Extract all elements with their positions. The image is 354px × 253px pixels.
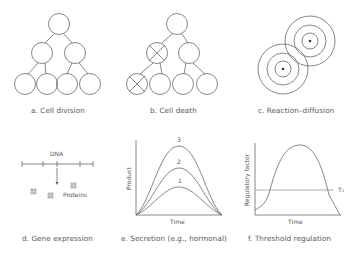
- protein-icon: [71, 183, 76, 188]
- caption-cell-division: a. Cell division: [31, 106, 85, 115]
- dna-label: DNA: [50, 150, 63, 157]
- caption-cell-death: b. Cell death: [150, 106, 197, 115]
- reaction-diffusion-rings: [258, 16, 335, 94]
- threshold-chart: [255, 143, 341, 215]
- cell-level3: [80, 74, 101, 95]
- regulatory-curve: [255, 145, 340, 215]
- caption-threshold-regulation: f. Threshold regulation: [248, 234, 331, 243]
- diagram-canvas: [0, 0, 354, 253]
- curve-2: [136, 168, 222, 215]
- protein-icon: [48, 193, 53, 198]
- caption-secretion: e. Secretion (e.g., hormonal): [121, 234, 227, 243]
- x-axis-label-time: Time: [288, 218, 303, 225]
- y-axis-label-regulatory-factor: Regulatory factor: [243, 154, 250, 206]
- cell-level2-right: [65, 43, 86, 64]
- x-axis-label-time: Time: [170, 218, 185, 225]
- cell-level3: [15, 74, 36, 95]
- caption-gene-expression: d. Gene expression: [22, 234, 93, 243]
- cell-division-tree: [15, 14, 101, 95]
- protein-icon: [31, 189, 36, 194]
- cell-level3: [57, 74, 78, 95]
- y-axis-label-product: Product: [125, 167, 132, 190]
- curve-label-2: 2: [177, 158, 181, 165]
- curve-label-1: 1: [178, 177, 182, 184]
- curve-label-3: 3: [177, 136, 181, 143]
- cell-death-tree: [127, 14, 218, 95]
- threshold-label: T₁: [338, 186, 344, 193]
- cell-root: [49, 14, 70, 35]
- cell-level2-left: [32, 43, 53, 64]
- cell-level3: [37, 74, 58, 95]
- proteins-label: Proteins: [63, 191, 87, 198]
- caption-reaction-diffusion: c. Reaction–diffusion: [258, 106, 334, 115]
